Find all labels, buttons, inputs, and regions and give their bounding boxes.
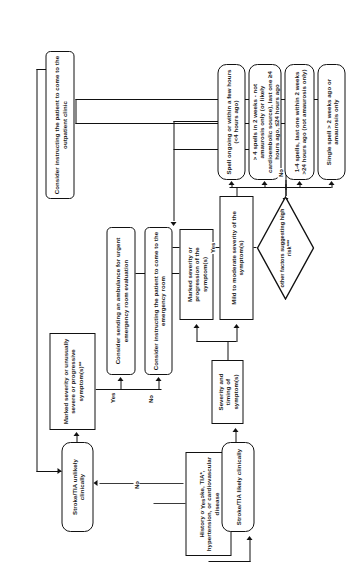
edge-bus-spell2-arrow — [262, 181, 268, 185]
edge-yes1-line — [154, 503, 188, 504]
edge-spell1-to-er — [174, 121, 175, 221]
edge-spell4-up — [76, 99, 319, 100]
edge-marked-split-vert — [96, 389, 162, 390]
node-mild-moderate: Mild to moderate severity of the symptom… — [220, 196, 254, 320]
node-high-risk-decision: other factors suggesting high risk*** — [257, 196, 315, 300]
node-single-spell: Single spell > 2 weeks ago or amaurosis … — [318, 64, 346, 180]
node-action-clinic-label: Consider instructing the patient to come… — [53, 55, 68, 195]
edge-bus-to-spell2 — [265, 185, 266, 188]
node-spell-ongoing: Spell ongoing or within a few hours (<4 … — [218, 64, 246, 180]
node-marked-unusual: Marked severity or unusually severe or p… — [50, 333, 96, 430]
edge-spell1-to-er-arrow — [171, 222, 177, 226]
edge-label-no1: No — [134, 480, 140, 490]
edge-bus-spell4-arrow — [329, 181, 335, 185]
node-action-ambulance: Consider sending an ambulance for urgent… — [107, 227, 136, 375]
edge-label-yes3: Yes — [210, 242, 216, 254]
edge-yes2-line — [121, 381, 122, 390]
edge-spell4-join — [76, 99, 77, 124]
node-mild-moderate-label: Mild to moderate severity of the symptom… — [229, 200, 244, 316]
node-spells-gt4-label: > 4 spells in 2 weeks - not amaurosis on… — [250, 68, 280, 176]
flowchart-canvas: History of stroke, TIA*, hypertension, o… — [14, 0, 307, 570]
edge-entry-horizontal — [250, 540, 251, 562]
edge-severity-split — [197, 341, 237, 342]
node-spell-ongoing-label: Spell ongoing or within a few hours (<4 … — [224, 68, 239, 176]
edge-to-marked-prog-arrow — [194, 324, 200, 328]
edge-severity-to-marked-prog — [197, 328, 198, 342]
node-stroke-likely-label: Stroke/TIA likely clinically — [234, 449, 241, 525]
edge-entry-vertical — [209, 561, 251, 562]
node-spells-1-4-label: 1-4 spells, last one within 2 weeks >24 … — [292, 68, 307, 176]
edge-mild-bus — [230, 187, 332, 188]
node-action-ambulance-label: Consider sending an ambulance for urgent… — [114, 231, 129, 371]
node-marked-progression-label: Marked severity or progression of the sy… — [185, 233, 207, 316]
edge-bus-spell3-arrow — [297, 181, 303, 185]
edge-label-yes2: Yes — [110, 392, 116, 404]
edge-severity-out — [228, 342, 229, 360]
edge-no1-arrow — [94, 481, 98, 487]
node-severity-timing: Severity and timing of symptom(s) — [212, 360, 244, 424]
edge-entry-arrow — [247, 536, 253, 540]
edge-bus-to-spell4 — [332, 185, 333, 188]
node-spells-gt4: > 4 spells in 2 weeks - not amaurosis on… — [249, 64, 282, 180]
edge-bus-spell1-arrow — [229, 181, 235, 185]
node-single-spell-label: Single spell > 2 weeks ago or amaurosis … — [324, 68, 339, 176]
edge-severity-to-mild — [237, 328, 238, 342]
edge-label-no2: No — [148, 394, 154, 404]
node-action-er-label: Consider instructing the patient to come… — [151, 231, 166, 371]
node-severity-timing-label: Severity and timing of symptom(s) — [216, 364, 238, 420]
node-action-er: Consider instructing the patient to come… — [145, 227, 173, 375]
edge-likely-to-severity — [236, 432, 237, 442]
edge-likely-to-severity-arrow — [233, 428, 239, 432]
node-marked-unusual-label: Marked severity or unusually severe or p… — [61, 337, 83, 426]
node-stroke-likely: Stroke/TIA likely clinically — [222, 442, 255, 532]
edge-yes2-arrow — [118, 377, 124, 381]
edge-to-mild-arrow — [234, 324, 240, 328]
edge-clinic-return-h — [37, 69, 38, 472]
edge-no2-line — [159, 381, 160, 390]
edge-mild-out — [237, 188, 238, 196]
node-spells-1-4: 1-4 spells, last one within 2 weeks >24 … — [285, 64, 315, 180]
edge-no2-arrow — [156, 377, 162, 381]
edge-label-yes1: Yes — [200, 498, 206, 510]
node-marked-progression: Marked severity or progression of the sy… — [180, 229, 214, 320]
edge-spell1-up — [174, 121, 219, 122]
node-stroke-unlikely: Stroke/TIA unlikely clinically — [62, 442, 94, 532]
edge-label-no3: No — [278, 168, 284, 178]
node-high-risk-label: other factors suggesting high risk*** — [257, 196, 315, 300]
edge-bus-to-spell1 — [232, 185, 233, 188]
edge-unlikely-to-marked-arrow — [74, 432, 80, 436]
edge-bus-to-spell3 — [300, 185, 301, 188]
node-stroke-unlikely-label: Stroke/TIA unlikely clinically — [70, 446, 85, 528]
edge-no1-line — [100, 483, 184, 484]
node-action-clinic: Consider instructing the patient to come… — [46, 51, 75, 199]
